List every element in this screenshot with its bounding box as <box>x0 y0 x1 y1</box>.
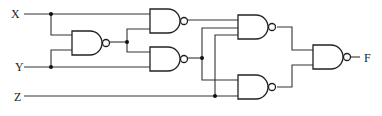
junction-g1 <box>125 40 129 44</box>
input-label-x: X <box>11 7 20 21</box>
wire-g5-out <box>277 65 313 87</box>
junction-z <box>213 94 217 98</box>
nand-gate-g5 <box>238 75 276 99</box>
nand-gate-g3 <box>150 47 188 71</box>
wire-g4-out <box>277 27 313 50</box>
wire-g3-out <box>185 28 238 80</box>
output-label-f: F <box>364 51 371 65</box>
wire-g1-out <box>110 29 150 52</box>
nand-gate-g4 <box>238 15 276 39</box>
input-label-z: Z <box>14 90 21 104</box>
junction-y <box>49 65 53 69</box>
input-label-y: Y <box>15 60 24 74</box>
wire-z <box>24 35 238 96</box>
junction-g3 <box>200 56 204 60</box>
logic-circuit-diagram: X Y Z F <box>0 0 382 116</box>
nand-gate-g1 <box>72 31 110 55</box>
junction-x <box>49 12 53 16</box>
nand-gate-g2 <box>150 9 188 33</box>
nand-gate-g6 <box>313 45 351 69</box>
